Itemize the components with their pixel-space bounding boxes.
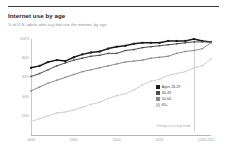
- data-point-marker: [39, 118, 41, 120]
- y-tick-label: 20%: [13, 114, 29, 118]
- data-point-marker: [125, 93, 127, 95]
- data-point-marker: [150, 57, 152, 59]
- legend-item-label: 65+: [162, 103, 168, 107]
- data-point-marker: [56, 59, 58, 61]
- legend-item-label: 30-49: [162, 91, 171, 95]
- data-point-marker: [65, 111, 67, 113]
- data-point-marker: [142, 84, 144, 86]
- data-point-marker: [116, 53, 118, 55]
- data-point-marker: [167, 75, 169, 77]
- data-point-marker: [133, 89, 135, 91]
- data-point-marker: [116, 46, 118, 48]
- data-point-marker: [133, 49, 135, 51]
- data-point-marker: [210, 58, 212, 60]
- legend-swatch-icon: [156, 97, 160, 101]
- legend-item[interactable]: 50-64: [156, 97, 180, 102]
- data-point-marker: [176, 53, 178, 55]
- data-point-marker: [202, 48, 204, 50]
- data-point-marker: [47, 82, 49, 84]
- data-point-marker: [116, 63, 118, 65]
- data-point-marker: [90, 56, 92, 58]
- data-point-marker: [202, 41, 204, 43]
- series-line: [31, 43, 211, 91]
- data-point-marker: [176, 73, 178, 75]
- legend-swatch-icon: [156, 85, 160, 89]
- data-point-marker: [193, 67, 195, 69]
- data-point-marker: [99, 67, 101, 69]
- data-point-marker: [56, 65, 58, 67]
- data-point-marker: [184, 40, 186, 42]
- legend-item[interactable]: Ages 18-29: [156, 84, 180, 89]
- data-point-marker: [81, 53, 83, 55]
- y-tick-label: 60%: [13, 75, 29, 79]
- data-point-marker: [65, 77, 67, 79]
- data-point-marker: [47, 69, 49, 71]
- data-point-marker: [107, 53, 109, 55]
- x-tick-label: 2005: [64, 138, 84, 142]
- data-point-marker: [133, 43, 135, 45]
- data-point-marker: [107, 65, 109, 67]
- data-point-marker: [90, 69, 92, 71]
- data-point-marker: [193, 50, 195, 52]
- data-point-marker: [30, 76, 32, 78]
- chart-annotation: Change in survey mode: [156, 124, 191, 128]
- data-point-marker: [193, 41, 195, 43]
- data-point-marker: [202, 65, 204, 67]
- data-point-marker: [30, 90, 32, 92]
- data-point-marker: [159, 56, 161, 58]
- data-point-marker: [73, 59, 75, 61]
- data-point-marker: [141, 42, 143, 44]
- plot-area: [31, 39, 211, 135]
- legend-item[interactable]: 30-49: [156, 90, 180, 95]
- data-point-marker: [64, 60, 66, 62]
- data-point-marker: [73, 109, 75, 111]
- data-point-marker: [99, 102, 101, 104]
- page-title: Internet use by age: [8, 12, 65, 19]
- y-tick-label: 80%: [13, 56, 29, 60]
- data-point-marker: [39, 86, 41, 88]
- data-point-marker: [159, 42, 161, 44]
- data-point-marker: [176, 43, 178, 45]
- page-subtitle: % of U.S. adults who say that use the in…: [8, 22, 106, 27]
- data-point-marker: [176, 40, 178, 42]
- data-point-marker: [167, 56, 169, 58]
- x-tick-label: 2000: [21, 138, 41, 142]
- x-tick-label: 2015: [150, 138, 170, 142]
- data-point-marker: [56, 112, 58, 114]
- series-lines: [31, 39, 211, 135]
- data-point-marker: [82, 57, 84, 59]
- y-tick-label: 100%: [13, 37, 29, 41]
- data-point-marker: [73, 56, 75, 58]
- x-tick-label: 2010: [107, 138, 127, 142]
- data-point-marker: [107, 48, 109, 50]
- data-point-marker: [90, 51, 92, 53]
- data-point-marker: [99, 55, 101, 57]
- y-tick-label: 40%: [13, 95, 29, 99]
- data-point-marker: [167, 44, 169, 46]
- legend-item-label: Ages 18-29: [162, 85, 180, 89]
- data-point-marker: [30, 67, 32, 69]
- data-point-marker: [47, 115, 49, 117]
- data-point-marker: [82, 71, 84, 73]
- series-line: [31, 42, 211, 77]
- data-point-marker: [210, 42, 212, 44]
- x-tick-label: 2021: [201, 138, 221, 142]
- data-point-marker: [47, 61, 49, 63]
- data-point-marker: [65, 62, 67, 64]
- chart-legend: Ages 18-2930-4950-6465+: [156, 84, 180, 109]
- data-point-marker: [82, 106, 84, 108]
- data-point-marker: [142, 59, 144, 61]
- data-point-marker: [125, 50, 127, 52]
- data-point-marker: [167, 40, 169, 42]
- data-point-marker: [125, 61, 127, 63]
- data-point-marker: [73, 74, 75, 76]
- data-point-marker: [133, 60, 135, 62]
- data-point-marker: [124, 45, 126, 47]
- data-point-marker: [30, 121, 32, 123]
- data-point-marker: [150, 80, 152, 82]
- data-point-marker: [39, 73, 41, 75]
- data-point-marker: [150, 46, 152, 48]
- data-point-marker: [99, 50, 101, 52]
- series-line: [31, 59, 211, 121]
- legend-item[interactable]: 65+: [156, 103, 180, 108]
